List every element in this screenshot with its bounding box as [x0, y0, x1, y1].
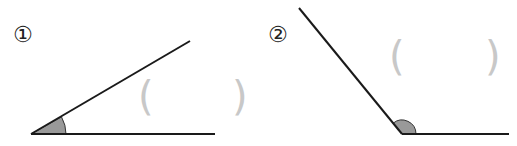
angle-2-slanted-ray: [299, 8, 402, 134]
angle-1-slanted-ray: [31, 41, 190, 134]
angles-diagram: [0, 0, 517, 146]
answer-2-close-paren: ): [485, 36, 501, 76]
problem-1-label: ①: [13, 24, 33, 46]
answer-1-close-paren: ): [232, 76, 248, 116]
answer-2-open-paren: (: [389, 36, 405, 76]
problem-2-label: ②: [268, 24, 288, 46]
answer-1-open-paren: (: [138, 76, 154, 116]
angle-1: [31, 41, 215, 134]
